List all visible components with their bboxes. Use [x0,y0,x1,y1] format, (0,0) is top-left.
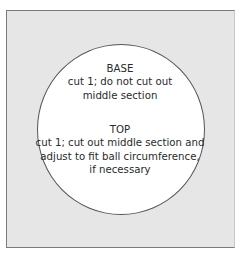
top-instruction-line-1: cut 1; cut out middle section and [0,136,240,149]
top-heading: TOP [0,123,240,136]
top-instruction-line-2: adjust to fit ball circumference, [0,150,240,163]
top-label-group: TOP cut 1; cut out middle section and ad… [0,123,240,176]
base-heading: BASE [0,62,240,75]
base-label-group: BASE cut 1; do not cut out middle sectio… [0,62,240,102]
top-instruction-line-3: if necessary [0,163,240,176]
base-instruction-line-2: middle section [0,89,240,102]
base-instruction-line-1: cut 1; do not cut out [0,75,240,88]
